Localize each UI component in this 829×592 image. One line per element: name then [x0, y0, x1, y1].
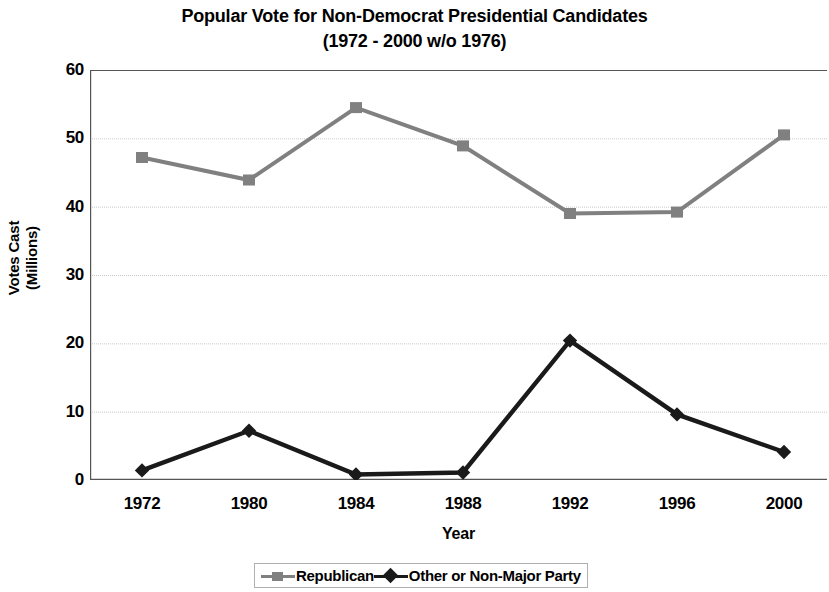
legend-entry[interactable]: Republican [261, 568, 374, 583]
series-layer [135, 102, 791, 480]
x-tick-label: 1972 [87, 494, 197, 514]
data-point-marker [457, 140, 469, 151]
gridlines [90, 71, 827, 413]
y-tick-label: 10 [40, 403, 84, 420]
x-tick-label: 1988 [408, 494, 518, 514]
x-tick-label: 1984 [301, 494, 411, 514]
x-axis-tick-labels: 1972198019841988199219962000 [90, 494, 827, 518]
data-point-marker [564, 208, 576, 219]
legend-label: Other or Non-Major Party [409, 568, 581, 583]
data-point-marker [243, 175, 255, 186]
legend-square-marker-icon [261, 569, 295, 583]
y-tick-label: 50 [40, 129, 84, 146]
series-line [142, 108, 784, 214]
data-point-marker [242, 424, 256, 438]
data-point-marker [671, 207, 683, 218]
x-tick-label: 1992 [515, 494, 625, 514]
x-tick-label: 1980 [194, 494, 304, 514]
plot-area [90, 70, 827, 480]
data-point-marker [349, 467, 363, 480]
x-tick-label: 1996 [622, 494, 732, 514]
series-other-or-non-major-party [135, 333, 791, 480]
legend-diamond-marker-icon [374, 569, 408, 583]
chart-title-line-1: Popular Vote for Non-Democrat Presidenti… [181, 6, 647, 26]
chart-title: Popular Vote for Non-Democrat Presidenti… [0, 4, 829, 54]
x-axis-title: Year [90, 525, 827, 543]
series-republican [136, 102, 790, 219]
data-point-marker [135, 463, 149, 477]
data-point-marker [778, 129, 790, 140]
data-point-marker [350, 102, 362, 113]
line-chart-svg [90, 70, 827, 480]
x-tick-label: 2000 [729, 494, 829, 514]
y-tick-label: 30 [40, 266, 84, 283]
series-line [142, 341, 784, 475]
chart-title-line-2: (1972 - 2000 w/o 1976) [0, 29, 829, 54]
data-point-marker [777, 445, 791, 459]
y-tick-label: 0 [40, 471, 84, 488]
y-tick-label: 20 [40, 334, 84, 351]
data-point-marker [136, 152, 148, 163]
legend-label: Republican [296, 568, 374, 583]
chart-legend: RepublicanOther or Non-Major Party [254, 563, 588, 588]
legend-entry[interactable]: Other or Non-Major Party [374, 568, 581, 583]
y-axis-title-line-1: Votes Cast [5, 158, 23, 358]
y-tick-label: 60 [40, 61, 84, 78]
y-axis-tick-labels: 0102030405060 [34, 0, 84, 592]
y-tick-label: 40 [40, 198, 84, 215]
